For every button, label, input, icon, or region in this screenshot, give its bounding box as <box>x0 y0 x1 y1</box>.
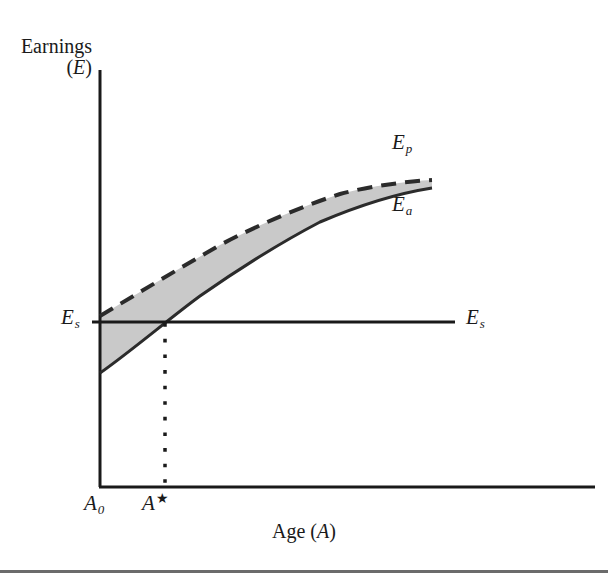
x-axis-title: Age (A) <box>272 521 336 542</box>
y-axis-title-line2: (E) <box>6 57 92 78</box>
axis-label-standard-earnings-left: Es <box>61 306 79 328</box>
curve-label-ea-base: E <box>392 192 405 216</box>
label-a0-subscript: 0 <box>98 502 105 517</box>
x-axis-paren-close: ) <box>329 520 336 542</box>
curve-label-ep-subscript: p <box>406 141 413 156</box>
y-axis-title: Earnings (E) <box>6 36 92 78</box>
x-axis-variable: A <box>317 520 329 542</box>
label-astar-base: A <box>142 491 155 515</box>
curve-label-potential-earnings: Ep <box>392 131 411 153</box>
bottom-divider-rule <box>0 570 608 573</box>
label-es-right-base: E <box>466 305 479 329</box>
line-label-standard-earnings-right: Es <box>466 306 484 328</box>
y-axis-paren-close: ) <box>85 56 92 78</box>
star-icon: ★ <box>156 491 169 506</box>
label-es-left-subscript: s <box>75 316 80 331</box>
curve-label-ep-base: E <box>392 130 405 154</box>
y-axis-title-line1: Earnings <box>21 35 92 57</box>
label-es-left-base: E <box>61 305 74 329</box>
label-es-right-subscript: s <box>480 316 485 331</box>
curve-label-ea-subscript: a <box>406 203 413 218</box>
shaded-training-band <box>100 180 432 373</box>
curve-label-actual-earnings: Ea <box>392 193 411 215</box>
x-axis-tick-label-a0: A0 <box>84 492 103 514</box>
x-axis-tick-label-a-star: A★ <box>142 492 168 514</box>
y-axis-variable: E <box>73 56 85 78</box>
actual-earnings-curve <box>100 188 432 373</box>
x-axis-title-text: Age ( <box>272 520 317 542</box>
label-a0-base: A <box>84 491 97 515</box>
